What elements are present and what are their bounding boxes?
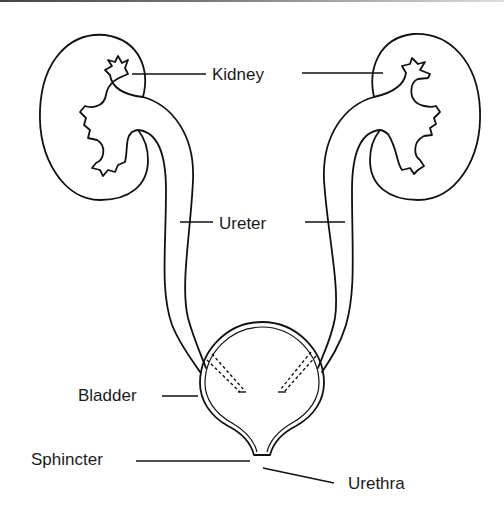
label-sphincter-group: Sphincter xyxy=(31,450,250,469)
bladder xyxy=(200,322,324,455)
urethra-leader xyxy=(263,468,334,483)
label-sphincter: Sphincter xyxy=(31,450,103,469)
left-kidney xyxy=(40,35,148,200)
label-urethra: Urethra xyxy=(348,474,405,493)
left-ureter xyxy=(138,97,206,372)
label-ureter-group: Ureter xyxy=(180,214,345,233)
label-kidney: Kidney xyxy=(212,65,264,84)
right-ureter xyxy=(318,97,380,372)
label-bladder: Bladder xyxy=(78,386,137,405)
urinary-system-diagram: Kidney Ureter Bladder Sphincter Urethra xyxy=(0,0,504,516)
label-kidney-group: Kidney xyxy=(132,65,383,84)
label-ureter: Ureter xyxy=(219,214,267,233)
label-urethra-group: Urethra xyxy=(263,468,405,493)
label-bladder-group: Bladder xyxy=(78,386,198,405)
right-kidney xyxy=(370,34,480,200)
